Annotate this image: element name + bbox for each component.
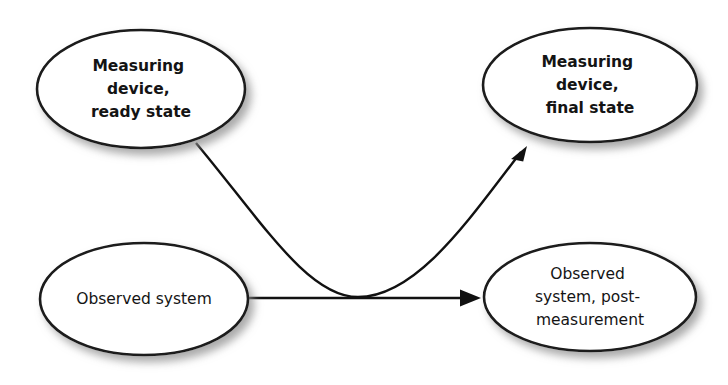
measuring-device-final-line-1: Measuring bbox=[541, 53, 633, 71]
edge-device-to-final-line bbox=[196, 143, 521, 297]
node-observed-system[interactable]: Observed system bbox=[40, 243, 248, 355]
node-layer: Measuring device, ready state Measuring … bbox=[37, 28, 697, 355]
diagram-canvas: Measuring device, ready state Measuring … bbox=[0, 0, 728, 385]
observed-system-line-1: Observed system bbox=[76, 290, 212, 308]
edge-layer bbox=[196, 143, 532, 307]
observed-system-label: Observed system bbox=[76, 290, 212, 308]
measuring-device-ready-line-2: device, bbox=[107, 80, 170, 98]
measuring-device-final-label: Measuring device, final state bbox=[541, 53, 638, 117]
node-measuring-device-final[interactable]: Measuring device, final state bbox=[483, 28, 697, 142]
measuring-device-final-line-2: device, bbox=[556, 76, 619, 94]
measuring-device-ready-line-3: ready state bbox=[91, 103, 191, 121]
edge-system-to-post-arrowhead bbox=[460, 290, 481, 307]
measuring-device-ready-line-1: Measuring bbox=[92, 57, 184, 75]
measuring-device-final-line-3: final state bbox=[546, 99, 635, 117]
node-measuring-device-ready[interactable]: Measuring device, ready state bbox=[37, 30, 245, 148]
observed-system-post-line-2: system, post- bbox=[535, 288, 640, 306]
diagram-svg: Measuring device, ready state Measuring … bbox=[0, 0, 728, 385]
edge-system-to-post bbox=[247, 290, 481, 307]
observed-system-post-line-1: Observed bbox=[550, 265, 625, 283]
edge-device-to-final bbox=[196, 143, 532, 297]
observed-system-post-label: Observed system, post- measurement bbox=[535, 265, 645, 329]
node-observed-system-post[interactable]: Observed system, post- measurement bbox=[484, 243, 696, 351]
observed-system-post-line-3: measurement bbox=[536, 311, 644, 329]
